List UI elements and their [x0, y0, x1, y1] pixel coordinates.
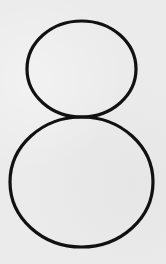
digit-eight-figure [0, 0, 166, 264]
upper-loop [27, 21, 136, 117]
digit-canvas: 8 [0, 0, 166, 264]
lower-loop [10, 117, 153, 247]
